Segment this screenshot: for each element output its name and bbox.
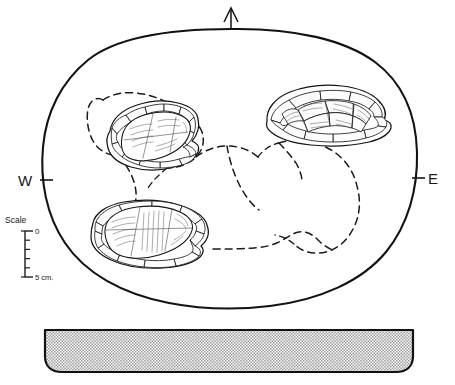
stone-basin-lower-left [91, 200, 208, 268]
cross-section-profile [45, 330, 413, 372]
scale-title: Scale [5, 215, 27, 225]
scale-bar: Scale 0 5 cm. [5, 215, 53, 282]
site-plan-figure: W E Scale 0 5 cm. [0, 0, 455, 385]
west-label: W [18, 172, 33, 189]
east-label: E [428, 170, 439, 187]
figure-root: W E Scale 0 5 cm. [0, 0, 455, 385]
feature-outline-oval [42, 29, 417, 308]
scale-zero-label: 0 [35, 227, 40, 236]
scale-max-label: 5 cm. [35, 273, 53, 282]
